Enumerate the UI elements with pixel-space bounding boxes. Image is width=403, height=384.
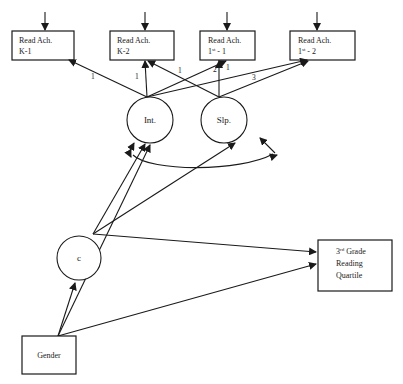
covariance-curve: [133, 154, 273, 168]
factor-slope-label: Slp.: [217, 115, 231, 125]
indicator-k1-line2: K-1: [19, 47, 31, 56]
path-gender-c: [58, 283, 75, 336]
path-slp-g2: [219, 61, 308, 97]
latent-class-c: c: [57, 236, 101, 280]
latent-class-label: c: [77, 253, 81, 263]
indicator-k2-line1: Read Ach.: [117, 36, 150, 45]
covariate-gender-label: Gender: [37, 351, 61, 360]
factor-slope: Slp.: [201, 97, 247, 143]
covariance-arrow-int: [129, 143, 134, 152]
svg-text:1st - 2: 1st - 2: [298, 47, 316, 56]
covariance-arrow-slp: [260, 138, 275, 153]
path-gender-outcome: [58, 264, 316, 336]
outcome-line2: Reading: [336, 259, 363, 268]
factor-intercept-label: Int.: [144, 115, 156, 125]
label-int-g1: 1: [178, 66, 182, 75]
path-int-k2: [145, 61, 147, 97]
label-int-k1: 1: [91, 72, 95, 81]
path-diagram: Read Ach. K-1 Read Ach. K-2 Read Ach. 1s…: [0, 0, 403, 384]
covariance-arrow-slp-end: [271, 155, 277, 157]
outcome-grade-word: Grade: [344, 247, 366, 256]
indicator-k1-line1: Read Ach.: [19, 36, 52, 45]
svg-text:1st - 1: 1st - 1: [208, 47, 226, 56]
indicator-g1-line1: Read Ach.: [208, 36, 241, 45]
label-slp-g1-a: 2: [213, 65, 217, 74]
label-slp-g2: 3: [252, 73, 256, 82]
indicator-k1: Read Ach. K-1: [12, 31, 74, 60]
factor-intercept: Int.: [127, 97, 173, 143]
class-paths: [93, 143, 316, 252]
loading-paths: [69, 60, 308, 97]
loading-labels: 1 1 1 2 1 3: [91, 63, 256, 82]
label-int-k2: 1: [135, 72, 139, 81]
label-slp-g1-b: 1: [226, 63, 230, 72]
indicator-g2-wave: - 2: [305, 47, 316, 56]
indicator-g2-line1: Read Ach.: [298, 36, 331, 45]
path-c-outcome: [93, 234, 316, 252]
indicator-g1-wave: - 1: [215, 47, 226, 56]
indicator-k2-line2: K-2: [117, 47, 129, 56]
path-c-int: [93, 144, 145, 234]
outcome-box: 3rd Grade Reading Quartile: [318, 240, 392, 291]
indicator-g1: Read Ach. 1st - 1: [200, 31, 255, 60]
covariate-gender: Gender: [22, 336, 76, 374]
residual-arrows: [45, 12, 317, 30]
indicator-k2: Read Ach. K-2: [110, 31, 174, 60]
outcome-line3: Quartile: [336, 271, 363, 280]
indicator-g2: Read Ach. 1st - 2: [290, 31, 355, 60]
